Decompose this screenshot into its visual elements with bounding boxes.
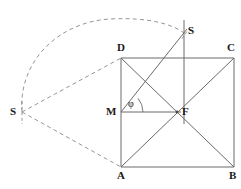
geometry-canvas — [0, 0, 241, 189]
geometry-figure: D C A B M F S S φ — [0, 0, 241, 189]
vertex-label-m: M — [106, 106, 116, 117]
vertex-label-s-left: S — [10, 106, 16, 117]
arc-s-left-to-s-top — [22, 19, 184, 112]
vertex-label-d: D — [117, 42, 125, 53]
vertex-label-f: F — [182, 106, 189, 117]
dashed-line-s-left-to-d — [22, 58, 121, 112]
vertex-label-c: C — [227, 42, 235, 53]
angle-arc-phi — [138, 98, 143, 112]
vertex-label-b: B — [229, 170, 236, 181]
vertex-dot-f — [176, 111, 179, 114]
dashed-line-s-left-to-a — [22, 112, 121, 167]
dashed-construction-group — [22, 19, 190, 167]
angle-label-phi: φ — [128, 99, 134, 109]
vertex-dots-group — [176, 111, 179, 114]
vertex-label-a: A — [117, 170, 125, 181]
vertex-label-s-top: S — [188, 25, 194, 36]
